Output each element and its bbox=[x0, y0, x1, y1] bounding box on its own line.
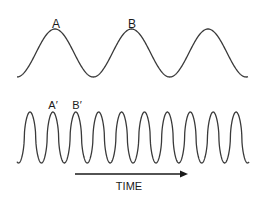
peak-label-b-prime: B′ bbox=[72, 99, 81, 111]
time-arrow-head-icon bbox=[180, 171, 188, 178]
time-axis-label: TIME bbox=[116, 180, 142, 192]
wave-diagram: A B A′ B′ TIME bbox=[0, 0, 261, 198]
peak-label-a: A bbox=[52, 17, 60, 31]
low-frequency-wave bbox=[17, 29, 248, 77]
peak-label-a-prime: A′ bbox=[48, 99, 57, 111]
high-frequency-wave bbox=[17, 112, 249, 163]
peak-label-b: B bbox=[128, 17, 136, 31]
